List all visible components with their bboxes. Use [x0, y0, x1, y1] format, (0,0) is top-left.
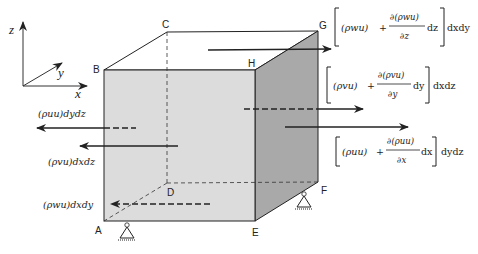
- cube: [104, 31, 318, 221]
- vertex-C: C: [162, 19, 169, 30]
- vertex-A: A: [95, 225, 102, 236]
- svg-text:dx: dx: [421, 146, 433, 157]
- vertex-F: F: [321, 185, 327, 196]
- svg-text:dxdy: dxdy: [447, 22, 471, 33]
- svg-text:∂y: ∂y: [388, 89, 397, 99]
- flux-right-out-equation: (ρuu) + ∂(ρuu) ∂x dx dydz: [336, 136, 464, 166]
- axis-y-label: y: [56, 65, 64, 80]
- flux-left-in-label: (ρuu)dydz: [38, 108, 87, 119]
- axis-x-label: x: [74, 86, 81, 101]
- coordinate-axes: z y x: [8, 22, 87, 101]
- svg-text:dydz: dydz: [441, 146, 464, 157]
- arrow-top-out: [208, 49, 331, 50]
- svg-text:∂(ρuu): ∂(ρuu): [387, 136, 414, 146]
- flux-top-out-equation: (ρwu) + ∂(ρwu) ∂z dz dxdy: [335, 8, 471, 46]
- flux-front-in-label: (ρvu)dxdz: [48, 156, 96, 167]
- vertex-D: D: [167, 187, 174, 198]
- vertex-B: B: [93, 64, 100, 75]
- svg-text:dy: dy: [413, 80, 425, 91]
- control-volume-diagram: z y x B C G H D F A E: [0, 0, 478, 254]
- svg-text:+: +: [367, 80, 375, 91]
- svg-text:dz: dz: [427, 22, 438, 33]
- support-A-icon: [118, 223, 136, 240]
- svg-text:dxdz: dxdz: [433, 80, 456, 91]
- svg-text:∂x: ∂x: [397, 155, 406, 165]
- svg-text:+: +: [376, 146, 384, 157]
- svg-text:(ρwu): (ρwu): [341, 22, 369, 33]
- vertex-G: G: [319, 20, 327, 31]
- vertex-H: H: [248, 58, 255, 69]
- svg-text:(ρuu): (ρuu): [342, 146, 368, 157]
- vertex-E: E: [252, 227, 259, 238]
- svg-text:∂(ρvu): ∂(ρvu): [378, 70, 404, 80]
- svg-text:∂(ρwu): ∂(ρwu): [390, 12, 419, 22]
- flux-bottom-in-label: (ρwu)dxdy: [43, 199, 94, 210]
- svg-text:+: +: [379, 22, 387, 33]
- axis-z-label: z: [8, 22, 14, 37]
- flux-back-out-equation: (ρvu) + ∂(ρvu) ∂y dy dxdz: [327, 67, 456, 103]
- svg-text:∂z: ∂z: [400, 31, 409, 41]
- svg-text:(ρvu): (ρvu): [333, 80, 358, 91]
